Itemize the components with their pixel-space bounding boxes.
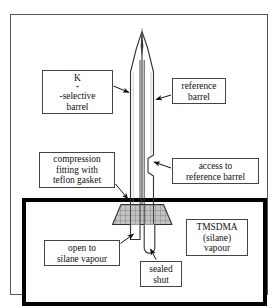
figure-root: K+-selective barrel reference barrel com…: [0, 0, 280, 308]
callout-sealed-shut-line2: shut: [143, 275, 179, 286]
callout-open-to-silane-vapour-line1: open to: [47, 243, 117, 254]
callout-access-to-reference-barrel: access to reference barrel: [172, 158, 259, 184]
callout-sealed-shut-line1: sealed: [143, 264, 179, 275]
callout-compression-fitting-line2: fitting with: [42, 165, 112, 176]
callout-reference-barrel-line1: reference: [175, 81, 223, 92]
callout-compression-fitting: compression fitting with teflon gasket: [39, 152, 115, 188]
pipette-glass-body: [131, 29, 154, 206]
callout-open-to-silane-vapour-line2: silane vapour: [47, 254, 117, 265]
callout-tmsdma-vapour: TMSDMA (silane) vapour: [186, 219, 248, 256]
callout-open-to-silane-vapour: open to silane vapour: [44, 240, 120, 266]
callout-reference-barrel-line2: barrel: [175, 92, 223, 103]
callout-tmsdma-vapour-line1: TMSDMA: [189, 222, 245, 233]
callout-k-selective-barrel-line2: barrel: [45, 102, 110, 113]
callout-reference-barrel: reference barrel: [172, 78, 226, 104]
callout-tmsdma-vapour-line2: (silane): [189, 233, 245, 244]
callout-compression-fitting-line1: compression: [42, 154, 112, 165]
lower-barrel-ends: [131, 225, 155, 254]
callout-k-selective-barrel: K+-selective barrel: [42, 70, 113, 114]
callout-access-to-reference-barrel-line2: reference barrel: [175, 172, 256, 183]
callout-access-to-reference-barrel-line1: access to: [175, 161, 256, 172]
teflon-gasket-compression-fitting: [113, 205, 173, 225]
callout-tmsdma-vapour-line3: vapour: [189, 243, 245, 254]
callout-sealed-shut: sealed shut: [140, 261, 182, 287]
callout-compression-fitting-line3: teflon gasket: [42, 175, 112, 186]
callout-k-selective-barrel-line1: K+-selective: [45, 73, 110, 102]
